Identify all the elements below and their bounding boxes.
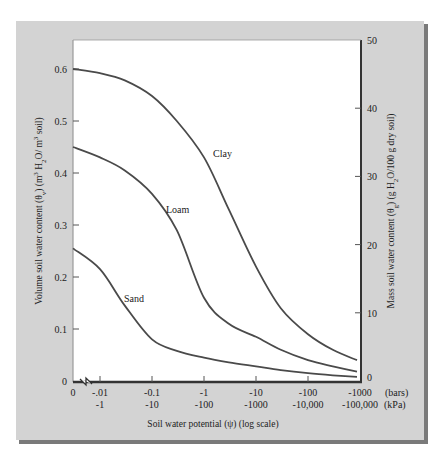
x-tick-label-kpa: -100 — [195, 399, 213, 410]
x-tick-label-kpa: -100,000 — [342, 399, 378, 410]
y-right-tick-label: 10 — [367, 308, 377, 319]
y-left-tick-label: 0.1 — [55, 324, 68, 335]
y-left-tick-label: 0.5 — [55, 116, 68, 127]
y-right-tick-label: 50 — [367, 35, 377, 46]
x-tick-label-bars: -.01 — [92, 387, 108, 398]
y-left-tick-label: 0.6 — [55, 64, 68, 75]
x-tick-label-bars: -1000 — [348, 387, 371, 398]
y-right-tick-label: 30 — [367, 171, 377, 182]
x-unit-bars: (bars) — [385, 387, 408, 399]
x-tick-label-bars: 0 — [71, 387, 76, 398]
y-right-tick-label: 0 — [367, 372, 372, 383]
x-tick-label-bars: -100 — [299, 387, 317, 398]
x-unit-kpa: (kPa) — [384, 399, 406, 411]
y-left-tick-label: 0.4 — [55, 168, 68, 179]
y-left-tick-label: 0.3 — [55, 220, 68, 231]
x-tick-label-bars: -0.1 — [144, 387, 160, 398]
x-tick-label-kpa: -1000 — [244, 399, 267, 410]
y-left-tick-label: 0 — [62, 376, 67, 387]
x-tick-label-bars: -1 — [200, 387, 208, 398]
soil-water-retention-chart: 00.10.20.30.40.50.6010203040500-.01-1-0.… — [0, 0, 436, 458]
series-label-clay: Clay — [213, 148, 232, 159]
plot-area — [73, 40, 361, 382]
y-left-tick-label: 0.2 — [55, 272, 68, 283]
y-right-tick-label: 40 — [367, 103, 377, 114]
x-tick-label-bars: -10 — [249, 387, 262, 398]
x-tick-label-kpa: -1 — [96, 399, 104, 410]
series-label-loam: Loam — [166, 204, 190, 215]
y-right-tick-label: 20 — [367, 240, 377, 251]
x-tick-label-kpa: -10,000 — [293, 399, 324, 410]
series-label-sand: Sand — [124, 293, 144, 304]
x-axis-title: Soil water potential (ψ) (log scale) — [147, 419, 278, 430]
x-tick-label-kpa: -10 — [145, 399, 158, 410]
